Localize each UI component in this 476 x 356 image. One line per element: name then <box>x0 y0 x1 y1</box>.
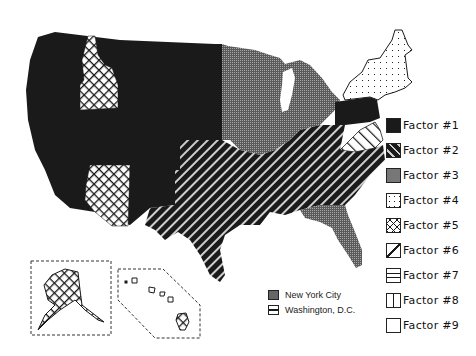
stripes-swatch-icon <box>386 143 401 158</box>
region-arizona-factor-5 <box>85 165 130 226</box>
factor-legend: Factor #1 Factor #2 Factor #3 Factor #4 … <box>386 113 476 338</box>
legend-label: Factor #6 <box>403 244 459 257</box>
crosshatch-swatch-icon <box>386 218 401 233</box>
city-label: New York City <box>285 290 341 300</box>
legend-item-factor-7: Factor #7 <box>386 263 476 288</box>
legend-item-factor-2: Factor #2 <box>386 138 476 163</box>
region-alaska-factor-5 <box>38 269 104 330</box>
legend-label: Factor #4 <box>403 194 459 207</box>
city-label: Washington, D.C. <box>285 305 355 315</box>
region-pennsylvania-factor-1 <box>335 97 380 125</box>
diagonal-swatch-icon <box>386 243 401 258</box>
legend-label: Factor #2 <box>403 144 459 157</box>
region-northeast-factor-4 <box>343 30 412 100</box>
legend-item-factor-9: Factor #9 <box>386 313 476 338</box>
legend-item-factor-4: Factor #4 <box>386 188 476 213</box>
legend-item-factor-3: Factor #3 <box>386 163 476 188</box>
legend-label: Factor #9 <box>403 319 459 332</box>
vertical-lines-swatch-icon <box>386 293 401 308</box>
dots-swatch-icon <box>386 193 401 208</box>
legend-item-factor-5: Factor #5 <box>386 213 476 238</box>
legend-label: Factor #8 <box>403 294 459 307</box>
legend-label: Factor #3 <box>403 169 459 182</box>
horizontal-lines-swatch-icon <box>268 305 279 315</box>
city-legend-item-nyc: New York City <box>268 287 355 302</box>
legend-item-factor-6: Factor #6 <box>386 238 476 263</box>
gray-swatch-icon <box>268 290 279 300</box>
region-hawaii <box>125 278 189 330</box>
horizontal-lines-swatch-icon <box>386 268 401 283</box>
legend-item-factor-1: Factor #1 <box>386 113 476 138</box>
legend-label: Factor #7 <box>403 269 459 282</box>
blank-swatch-icon <box>386 318 401 333</box>
gray-swatch-icon <box>386 168 401 183</box>
city-legend-item-dc: Washington, D.C. <box>268 302 355 317</box>
region-florida-factor-3 <box>300 205 362 268</box>
big-island-factor-5 <box>176 313 189 330</box>
legend-label: Factor #5 <box>403 219 459 232</box>
solid-swatch-icon <box>386 118 401 133</box>
city-legend: New York City Washington, D.C. <box>268 287 355 317</box>
legend-label: Factor #1 <box>403 119 459 132</box>
legend-item-factor-8: Factor #8 <box>386 288 476 313</box>
hawaii-inset-frame <box>118 269 200 338</box>
